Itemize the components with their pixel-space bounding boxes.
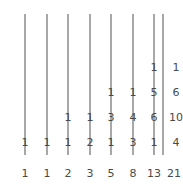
column-group: 1 1 2 — [57, 0, 79, 184]
column-group: 1 3 1 5 — [100, 0, 122, 184]
column-entries: 1 3 1 — [100, 80, 122, 155]
column-entries: 1 — [36, 130, 58, 155]
column-entry: 1 — [22, 130, 29, 155]
column-sum-label: 3 — [79, 167, 101, 181]
column-sum-label: 1 — [14, 167, 36, 181]
column-entry: 2 — [87, 130, 94, 155]
column-entry: 1 — [87, 105, 94, 130]
column-entry: 1 — [44, 130, 51, 155]
column-sum-label: 8 — [122, 167, 144, 181]
column-entry: 3 — [130, 130, 137, 155]
column-group: 4 10 6 1 21 — [161, 0, 183, 184]
column-sum-label: 21 — [163, 167, 183, 181]
column-entry: 1 — [130, 80, 137, 105]
column-entry: 1 — [65, 130, 72, 155]
column-entry: 1 — [151, 55, 158, 80]
column-entries: 3 4 1 — [122, 80, 144, 155]
column-group: 3 4 1 8 — [122, 0, 144, 184]
column-rule — [162, 14, 164, 155]
column-entry: 1 — [65, 105, 72, 130]
column-entry: 1 — [108, 130, 115, 155]
column-entries: 2 1 — [79, 105, 101, 155]
column-entry: 6 — [173, 80, 180, 105]
column-entries: 1 1 — [57, 105, 79, 155]
column-entries: 1 — [14, 130, 36, 155]
column-entry: 10 — [169, 105, 183, 130]
column-sum-label: 1 — [36, 167, 58, 181]
column-entries: 4 10 6 1 — [165, 55, 183, 155]
column-sum-label: 2 — [57, 167, 79, 181]
column-entry: 4 — [173, 130, 180, 155]
column-group: 1 1 — [36, 0, 58, 184]
column-entry: 6 — [151, 105, 158, 130]
column-sum-label: 5 — [100, 167, 122, 181]
column-group: 1 1 — [14, 0, 36, 184]
column-entry: 4 — [130, 105, 137, 130]
column-group: 2 1 3 — [79, 0, 101, 184]
column-entry: 3 — [108, 105, 115, 130]
column-entry: 1 — [151, 130, 158, 155]
column-entry: 1 — [173, 55, 180, 80]
column-entry: 1 — [108, 80, 115, 105]
column-entry: 5 — [151, 80, 158, 105]
fibonacci-pascal-diagram: 1 1 1 1 1 1 2 2 1 3 1 3 1 5 — [0, 0, 183, 184]
